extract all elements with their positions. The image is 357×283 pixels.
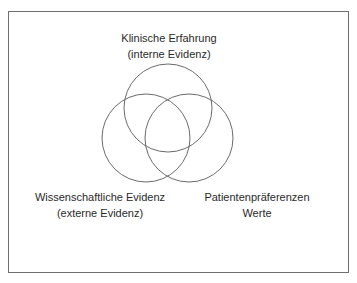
label-clinical-line1: Klinische Erfahrung (121, 30, 216, 46)
label-scientific-line1: Wissenschaftliche Evidenz (35, 189, 165, 205)
circle-scientific-evidence (102, 94, 190, 182)
circle-patient-preferences (145, 94, 233, 182)
circle-clinical-experience (124, 64, 212, 152)
label-clinical-line2: (interne Evidenz) (121, 46, 216, 62)
label-patient-line2: Werte (204, 205, 309, 221)
label-patient-preferences: Patientenpräferenzen Werte (204, 189, 309, 221)
label-patient-line1: Patientenpräferenzen (204, 189, 309, 205)
label-scientific-evidence: Wissenschaftliche Evidenz (externe Evide… (35, 189, 165, 221)
label-scientific-line2: (externe Evidenz) (35, 205, 165, 221)
label-clinical-experience: Klinische Erfahrung (interne Evidenz) (121, 30, 216, 62)
